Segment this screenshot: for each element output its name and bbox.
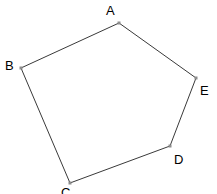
polygon-edge-ab <box>21 23 119 68</box>
polygon-edges <box>21 23 196 183</box>
vertex-label-c: C <box>61 186 70 194</box>
polygon-edge-bc <box>21 68 70 183</box>
vertex-label-a: A <box>106 4 115 17</box>
vertex-label-e: E <box>200 84 209 97</box>
vertex-marker-d <box>169 145 172 148</box>
vertex-marker-e <box>195 77 198 80</box>
polygon-edge-ea <box>119 23 196 78</box>
vertex-marker-a <box>118 22 121 25</box>
polygon-edge-cd <box>70 146 170 183</box>
vertex-label-b: B <box>5 59 14 72</box>
polygon-drawing <box>0 0 217 194</box>
vertex-label-d: D <box>174 153 183 166</box>
vertex-marker-b <box>20 67 23 70</box>
polygon-vertex-markers <box>20 22 198 185</box>
polygon-figure: ABCDE <box>0 0 217 194</box>
polygon-edge-de <box>170 78 196 146</box>
